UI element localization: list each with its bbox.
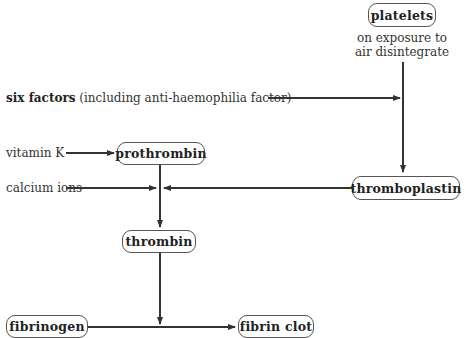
six-factors-bold: six factors (6, 91, 76, 105)
input-vitamin-k: vitamin K (6, 146, 64, 160)
input-calcium-ions: calcium ions (6, 181, 82, 195)
clotting-diagram: platelets on exposure to air disintegrat… (0, 0, 466, 338)
six-factors-detail: (including anti-haemophilia factor) (76, 91, 292, 105)
node-thromboplastin: thromboplastin (352, 176, 460, 200)
node-fibrinogen: fibrinogen (6, 315, 88, 338)
node-fibrin-clot: fibrin clot (238, 315, 314, 338)
node-platelets: platelets (368, 3, 436, 27)
platelets-note: on exposure to air disintegrate (352, 31, 452, 59)
input-six-factors: six factors (including anti-haemophilia … (6, 91, 291, 105)
platelets-note-line2: air disintegrate (352, 45, 452, 59)
node-prothrombin: prothrombin (117, 142, 205, 165)
node-thrombin: thrombin (122, 230, 196, 253)
platelets-note-line1: on exposure to (352, 31, 452, 45)
